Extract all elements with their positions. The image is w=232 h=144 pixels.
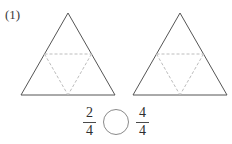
right-fraction-denominator: 4 <box>137 124 148 139</box>
comparison-row: 2 4 4 4 <box>0 100 232 144</box>
right-fraction: 4 4 <box>136 106 149 138</box>
left-fraction: 2 4 <box>83 106 96 138</box>
triangle-midline-right <box>180 54 204 95</box>
triangle-outline <box>133 13 227 95</box>
triangle-left-svg <box>20 0 120 100</box>
triangle-right-figure <box>132 0 232 104</box>
figures-row <box>0 0 232 100</box>
left-fraction-numerator: 2 <box>84 106 95 121</box>
triangle-right-svg <box>132 0 232 100</box>
triangle-midline-right <box>68 54 92 95</box>
triangle-left-figure <box>20 0 120 104</box>
comparison-operator-circle[interactable] <box>103 109 129 135</box>
triangle-midline-left <box>45 54 69 95</box>
worksheet-problem: (1) 2 4 4 <box>0 0 232 144</box>
left-fraction-denominator: 4 <box>84 124 95 139</box>
triangle-midline-left <box>157 54 181 95</box>
triangle-outline <box>21 13 115 95</box>
right-fraction-numerator: 4 <box>137 106 148 121</box>
